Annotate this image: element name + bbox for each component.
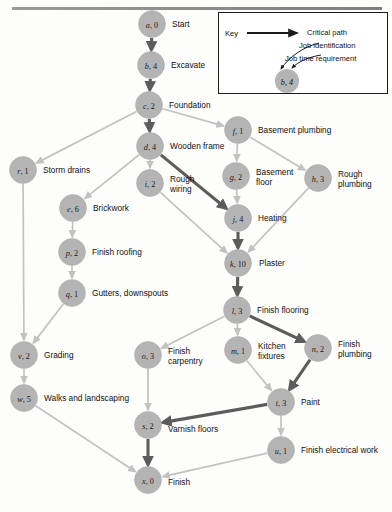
node-id-label-i: i, 2 bbox=[145, 179, 155, 188]
node-name-b: Excavate bbox=[171, 60, 206, 70]
node-id-label-l: l, 3 bbox=[232, 306, 242, 315]
node-p[interactable]: p, 2Finish roofing bbox=[59, 239, 143, 266]
node-name-s: Varnish floors bbox=[168, 424, 218, 434]
node-id-label-a: a, 0 bbox=[146, 20, 158, 29]
node-i[interactable]: i, 2Roughwiring bbox=[137, 170, 195, 197]
node-t[interactable]: t, 3Paint bbox=[268, 389, 321, 416]
key-critical-path-label: Critical path bbox=[307, 28, 347, 37]
node-id-label-n: n, 2 bbox=[312, 344, 324, 353]
edge-l-to-o bbox=[161, 316, 224, 348]
node-k[interactable]: k, 10Plaster bbox=[225, 250, 286, 277]
node-v[interactable]: v, 2Grading bbox=[11, 342, 74, 369]
node-id-label-e: e, 6 bbox=[67, 204, 79, 213]
node-id-label-u: u, 1 bbox=[275, 446, 287, 455]
node-id-label-m: m, 1 bbox=[231, 346, 245, 355]
key-job-identification-label: Job identification bbox=[299, 41, 356, 50]
edge-m-to-t bbox=[247, 361, 272, 391]
node-id-label-c: c, 2 bbox=[143, 101, 155, 110]
node-name-i: Roughwiring bbox=[169, 174, 195, 194]
node-u[interactable]: u, 1Finish electrical work bbox=[268, 437, 379, 464]
edge-g-to-j bbox=[237, 190, 238, 203]
node-name-f: Basement plumbing bbox=[258, 125, 332, 135]
node-name-h: Roughplumbing bbox=[338, 169, 372, 189]
node-name-x: Finish bbox=[168, 477, 191, 487]
node-j[interactable]: j, 4Heating bbox=[225, 205, 287, 232]
edge-d-to-e bbox=[85, 155, 139, 199]
edge-c-to-r bbox=[36, 111, 136, 163]
node-q[interactable]: q, 1Gutters, downspouts bbox=[59, 280, 169, 307]
node-name-l: Finish flooring bbox=[257, 305, 309, 315]
node-r[interactable]: r, 1Storm drains bbox=[10, 157, 91, 184]
node-name-g: Basementfloor bbox=[256, 167, 294, 187]
diagram-canvas: a, 0Startb, 4Excavatec, 2Foundationd, 4W… bbox=[0, 0, 392, 512]
node-name-e: Brickwork bbox=[93, 203, 130, 213]
node-name-n: Finishplumbing bbox=[338, 339, 372, 359]
node-id-label-k: k, 10 bbox=[230, 259, 246, 268]
edge-u-to-x bbox=[163, 453, 268, 477]
node-id-label-x: x, 0 bbox=[141, 476, 154, 485]
node-id-label-t: t, 3 bbox=[276, 398, 286, 407]
node-name-v: Grading bbox=[44, 350, 74, 360]
edge-l-to-n bbox=[250, 316, 304, 341]
edge-w-to-x bbox=[36, 406, 136, 472]
node-name-c: Foundation bbox=[169, 100, 211, 110]
node-e[interactable]: e, 6Brickwork bbox=[60, 195, 130, 222]
node-id-label-q: q, 1 bbox=[66, 289, 78, 298]
node-name-q: Gutters, downspouts bbox=[92, 288, 168, 298]
edge-f-to-h bbox=[250, 137, 305, 170]
node-id-label-p: p, 2 bbox=[65, 248, 78, 257]
node-id-label-b: b, 4 bbox=[145, 61, 157, 70]
node-id-label-r: r, 1 bbox=[17, 166, 28, 175]
edge-r-to-v bbox=[23, 184, 24, 340]
key-legend-box: Key b, 4 Critical path Job identificatio… bbox=[218, 12, 388, 94]
node-c[interactable]: c, 2Foundation bbox=[136, 92, 211, 119]
node-m[interactable]: m, 1Kitchenfixtures bbox=[225, 337, 287, 364]
node-id-label-j: j, 4 bbox=[232, 214, 243, 223]
node-name-m: Kitchenfixtures bbox=[258, 341, 286, 361]
node-n[interactable]: n, 2Finishplumbing bbox=[305, 335, 373, 362]
node-f[interactable]: f, 1Basement plumbing bbox=[225, 117, 332, 144]
edge-t-to-s bbox=[163, 404, 267, 422]
node-d[interactable]: d, 4Wooden frame bbox=[137, 133, 225, 160]
node-id-label-o: o, 3 bbox=[142, 351, 154, 360]
node-name-k: Plaster bbox=[259, 258, 285, 268]
node-name-u: Finish electrical work bbox=[301, 445, 379, 455]
key-job-time-label: Job time requirement bbox=[285, 54, 356, 63]
node-l[interactable]: l, 3Finish flooring bbox=[224, 297, 310, 324]
edge-n-to-t bbox=[290, 360, 310, 390]
node-id-label-h: h, 3 bbox=[312, 174, 324, 183]
edge-c-to-f bbox=[162, 109, 223, 126]
node-id-label-g: g, 2 bbox=[230, 172, 242, 181]
node-id-label-w: w, 5 bbox=[17, 394, 31, 403]
node-x[interactable]: x, 0Finish bbox=[135, 467, 191, 494]
edge-f-to-g bbox=[237, 144, 238, 161]
node-id-label-f: f, 1 bbox=[233, 126, 243, 135]
node-id-label-v: v, 2 bbox=[18, 351, 30, 360]
node-name-w: Walks and landscaping bbox=[44, 393, 129, 403]
node-name-r: Storm drains bbox=[43, 165, 90, 175]
node-b[interactable]: b, 4Excavate bbox=[138, 52, 206, 79]
node-name-a: Start bbox=[172, 19, 190, 29]
node-a[interactable]: a, 0Start bbox=[139, 11, 191, 38]
edge-b-to-c bbox=[150, 79, 151, 90]
node-name-j: Heating bbox=[258, 213, 287, 223]
node-name-o: Finishcarpentry bbox=[168, 346, 203, 366]
edge-q-to-v bbox=[33, 304, 63, 343]
node-id-label-s: s, 2 bbox=[142, 421, 153, 430]
node-w[interactable]: w, 5Walks and landscaping bbox=[11, 385, 130, 412]
svg-text:b, 4: b, 4 bbox=[281, 78, 293, 87]
node-id-label-d: d, 4 bbox=[144, 142, 156, 151]
node-o[interactable]: o, 3Finishcarpentry bbox=[135, 342, 204, 369]
node-g[interactable]: g, 2Basementfloor bbox=[223, 163, 295, 190]
node-name-p: Finish roofing bbox=[92, 247, 142, 257]
node-name-d: Wooden frame bbox=[170, 141, 225, 151]
node-name-t: Paint bbox=[301, 397, 321, 407]
node-h[interactable]: h, 3Roughplumbing bbox=[305, 165, 373, 192]
